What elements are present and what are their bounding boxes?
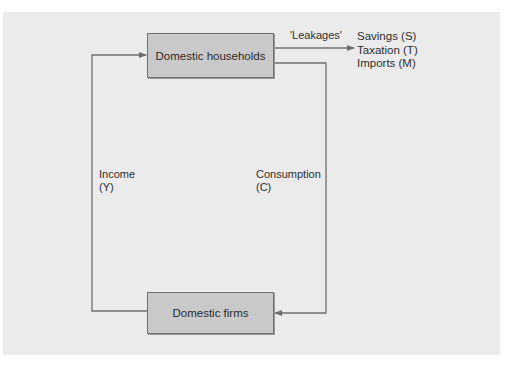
consumption-label-symbol: (C) <box>256 181 321 194</box>
consumption-label-text: Consumption <box>256 168 321 181</box>
domestic-firms-label: Domestic firms <box>172 307 248 319</box>
leakage-savings: Savings (S) <box>357 30 418 44</box>
leakages-list: Savings (S) Taxation (T) Imports (M) <box>357 30 418 71</box>
leakage-imports: Imports (M) <box>357 57 418 71</box>
leakage-taxation: Taxation (T) <box>357 44 418 58</box>
consumption-label: Consumption (C) <box>256 168 321 194</box>
leakages-label: 'Leakages' <box>290 29 342 42</box>
domestic-firms-box: Domestic firms <box>147 292 274 334</box>
income-label-symbol: (Y) <box>99 181 135 194</box>
domestic-households-label: Domestic households <box>156 50 266 62</box>
income-label-text: Income <box>99 168 135 181</box>
domestic-households-box: Domestic households <box>147 33 274 78</box>
income-label: Income (Y) <box>99 168 135 194</box>
